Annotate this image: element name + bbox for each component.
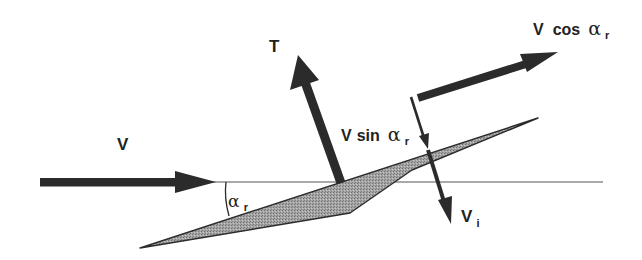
v-arrow	[40, 171, 216, 193]
v-cos-arrow	[418, 52, 558, 98]
label-v-sin-alpha-r: V sin α r	[341, 123, 410, 147]
label-alpha-r-angle: α r	[228, 191, 249, 213]
vi-arrow	[428, 150, 452, 224]
t-arrow	[290, 55, 341, 183]
label-vi: V i	[461, 207, 480, 229]
label-v: V	[117, 135, 129, 154]
v-sin-arrow	[411, 97, 429, 149]
label-t: T	[269, 37, 280, 56]
label-v-cos-alpha-r: V cos α r	[533, 17, 610, 41]
blade-velocity-diagram: T V V sin α r V cos α r V i α r	[0, 0, 642, 260]
